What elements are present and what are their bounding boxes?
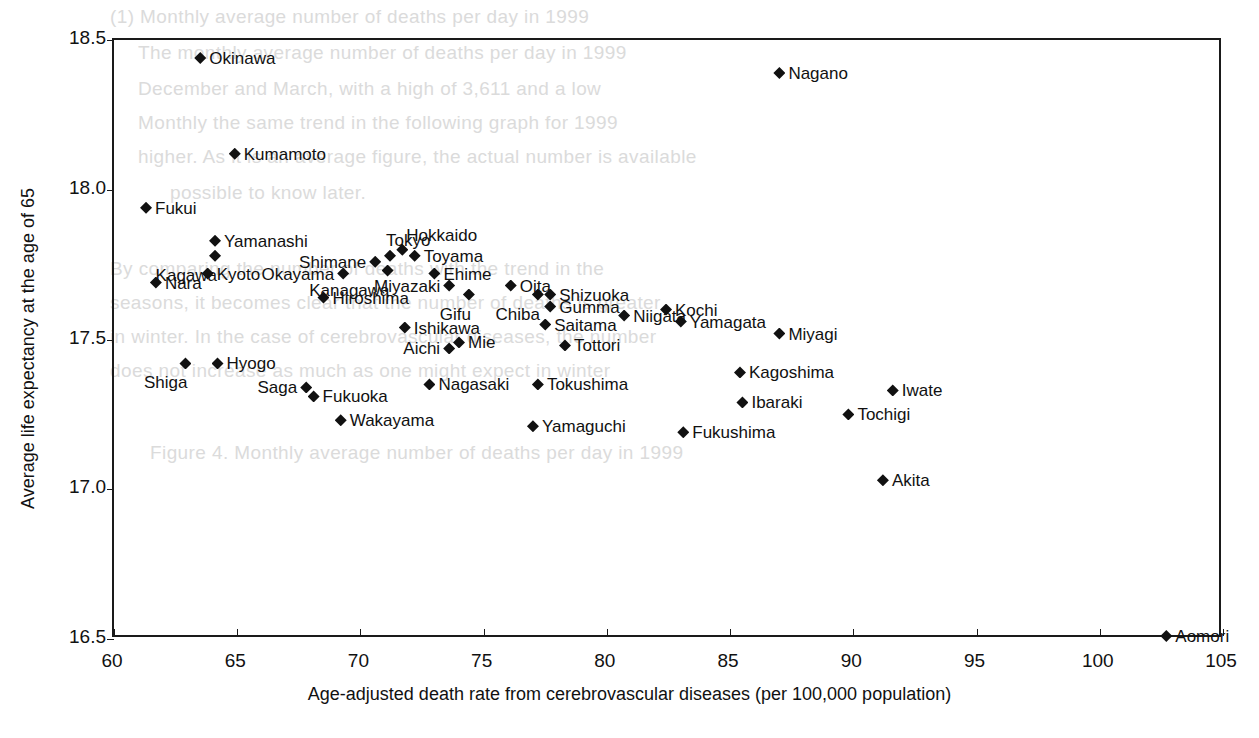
diamond-marker-icon — [209, 235, 221, 247]
x-tick-label-105: 105 — [1205, 650, 1237, 672]
x-tick-100 — [1100, 629, 1101, 636]
diamond-marker-icon — [409, 250, 421, 262]
point-label-shimane: Shimane — [299, 254, 366, 271]
point-label-fukushima: Fukushima — [692, 424, 775, 441]
x-tick-label-60: 60 — [101, 650, 122, 672]
x-tick-80 — [607, 629, 608, 636]
point-label-nagano: Nagano — [788, 65, 848, 82]
point-label-shiga: Shiga — [144, 374, 187, 391]
diamond-marker-icon — [527, 420, 539, 432]
x-tick-label-80: 80 — [594, 650, 615, 672]
diamond-marker-icon — [300, 381, 312, 393]
diamond-marker-icon — [877, 474, 889, 486]
diamond-marker-icon — [369, 256, 381, 268]
diamond-marker-icon — [532, 378, 544, 390]
diamond-marker-icon — [736, 396, 748, 408]
diamond-marker-icon — [229, 148, 241, 160]
point-label-iwate: Iwate — [902, 382, 943, 399]
diamond-marker-icon — [335, 414, 347, 426]
point-label-saitama: Saitama — [554, 317, 616, 334]
diamond-marker-icon — [382, 265, 394, 277]
y-tick-17.0 — [107, 489, 114, 490]
point-label-aomori: Aomori — [1175, 628, 1229, 645]
diamond-marker-icon — [539, 319, 551, 331]
point-label-toyama: Toyama — [424, 248, 484, 265]
diamond-marker-icon — [544, 301, 556, 313]
point-label-tochigi: Tochigi — [857, 406, 910, 423]
point-label-chiba: Chiba — [495, 306, 539, 323]
diamond-marker-icon — [734, 366, 746, 378]
diamond-marker-icon — [773, 67, 785, 79]
point-label-ibaraki: Ibaraki — [751, 394, 802, 411]
diamond-marker-icon — [842, 408, 854, 420]
point-label-mie: Mie — [468, 334, 495, 351]
diamond-marker-icon — [887, 384, 899, 396]
diamond-marker-icon — [140, 202, 152, 214]
scatter-chart: OkinawaKumamotoFukuiYamanashiKagawaKyoto… — [0, 0, 1259, 738]
point-label-saga: Saga — [258, 379, 298, 396]
y-tick-label-17.5: 17.5 — [69, 327, 106, 349]
diamond-marker-icon — [194, 52, 206, 64]
diamond-marker-icon — [308, 390, 320, 402]
point-label-nara: Nara — [165, 275, 202, 292]
point-label-akita: Akita — [892, 472, 930, 489]
y-tick-label-17.0: 17.0 — [69, 476, 106, 498]
x-axis-title: Age-adjusted death rate from cerebrovasc… — [0, 684, 1259, 705]
point-label-fukui: Fukui — [155, 200, 197, 217]
y-tick-label-18.0: 18.0 — [69, 177, 106, 199]
diamond-marker-icon — [453, 336, 465, 348]
y-tick-17.5 — [107, 340, 114, 341]
y-axis-title: Average life expectancy at the age of 65 — [18, 89, 39, 609]
point-label-okinawa: Okinawa — [209, 50, 275, 67]
diamond-marker-icon — [559, 339, 571, 351]
x-tick-75 — [484, 629, 485, 636]
diamond-marker-icon — [209, 250, 221, 262]
plot-area: OkinawaKumamotoFukuiYamanashiKagawaKyoto… — [112, 38, 1221, 637]
x-tick-label-100: 100 — [1082, 650, 1114, 672]
point-label-wakayama: Wakayama — [350, 412, 434, 429]
x-tick-label-70: 70 — [348, 650, 369, 672]
y-tick-16.5 — [107, 639, 114, 640]
diamond-marker-icon — [179, 357, 191, 369]
point-label-kagoshima: Kagoshima — [749, 364, 834, 381]
point-label-kyoto: Kyoto — [217, 266, 260, 283]
point-label-kumamoto: Kumamoto — [244, 146, 326, 163]
x-tick-label-65: 65 — [225, 650, 246, 672]
point-label-hyogo: Hyogo — [227, 355, 276, 372]
x-tick-90 — [853, 629, 854, 636]
point-label-nagasaki: Nagasaki — [438, 376, 509, 393]
x-tick-70 — [360, 629, 361, 636]
point-label-miyagi: Miyagi — [788, 326, 837, 343]
point-label-gumma: Gumma — [559, 299, 619, 316]
x-tick-95 — [977, 629, 978, 636]
diamond-marker-icon — [384, 250, 396, 262]
x-tick-label-85: 85 — [718, 650, 739, 672]
point-label-tottori: Tottori — [574, 337, 620, 354]
point-label-hokkaido: Hokkaido — [406, 227, 477, 244]
point-label-miyazaki: Miyazaki — [374, 278, 440, 295]
x-tick-label-90: 90 — [841, 650, 862, 672]
diamond-marker-icon — [677, 426, 689, 438]
point-label-yamanashi: Yamanashi — [224, 233, 308, 250]
point-label-yamagata: Yamagata — [690, 314, 766, 331]
diamond-marker-icon — [212, 357, 224, 369]
point-label-ehime: Ehime — [443, 266, 491, 283]
diamond-marker-icon — [505, 280, 517, 292]
point-label-yamaguchi: Yamaguchi — [542, 418, 626, 435]
y-tick-label-18.5: 18.5 — [69, 27, 106, 49]
y-tick-label-16.5: 16.5 — [69, 626, 106, 648]
diamond-marker-icon — [463, 289, 475, 301]
point-label-aichi: Aichi — [403, 340, 440, 357]
diamond-marker-icon — [773, 328, 785, 340]
point-label-tokushima: Tokushima — [547, 376, 628, 393]
diamond-marker-icon — [423, 378, 435, 390]
diamond-marker-icon — [1160, 630, 1172, 642]
y-tick-18.0 — [107, 190, 114, 191]
x-tick-label-75: 75 — [471, 650, 492, 672]
x-tick-60 — [114, 629, 115, 636]
point-label-fukuoka: Fukuoka — [323, 388, 388, 405]
diamond-marker-icon — [443, 342, 455, 354]
y-tick-18.5 — [107, 40, 114, 41]
x-tick-85 — [730, 629, 731, 636]
x-tick-65 — [237, 629, 238, 636]
